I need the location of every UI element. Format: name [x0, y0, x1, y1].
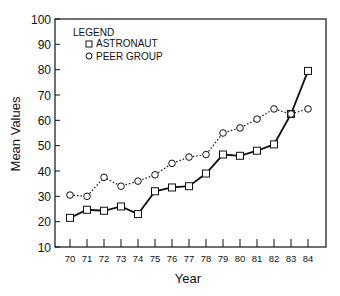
circle-marker-icon [84, 193, 91, 200]
series-layer [67, 67, 312, 221]
y-tick-label: 10 [38, 241, 52, 255]
x-tick-label: 82 [269, 253, 280, 264]
circle-marker-icon [203, 151, 210, 158]
circle-marker-icon [135, 178, 142, 185]
series-astronaut [67, 67, 312, 221]
square-marker-icon [67, 214, 74, 221]
square-marker-icon [203, 170, 210, 177]
y-tick-label: 90 [38, 38, 52, 52]
x-tick-label: 80 [235, 253, 246, 264]
x-tick-label: 71 [82, 253, 93, 264]
legend-square-marker-icon [86, 41, 92, 47]
x-tick-label: 77 [184, 253, 195, 264]
square-marker-icon [84, 206, 91, 213]
y-tick-label: 100 [31, 13, 51, 27]
circle-marker-icon [288, 111, 295, 118]
circle-marker-icon [254, 116, 261, 123]
circle-marker-icon [186, 154, 193, 161]
y-tick-label: 50 [38, 139, 52, 153]
y-axis-title: Mean Values [8, 96, 23, 171]
square-marker-icon [271, 141, 278, 148]
x-tick-label: 73 [116, 253, 127, 264]
legend-entry-astronaut: ASTRONAUT [96, 38, 158, 49]
y-tick-label: 30 [38, 190, 52, 204]
square-marker-icon [237, 152, 244, 159]
square-marker-icon [101, 207, 108, 214]
legend-entry-peer-group: PEER GROUP [96, 51, 163, 62]
y-tick-label: 80 [38, 63, 52, 77]
y-tick-label: 20 [38, 215, 52, 229]
circle-marker-icon [67, 192, 74, 199]
square-marker-icon [135, 211, 142, 218]
x-tick-label: 83 [286, 253, 297, 264]
circle-marker-icon [220, 130, 227, 137]
square-marker-icon [220, 151, 227, 158]
x-tick-label: 74 [133, 253, 144, 264]
circle-marker-icon [305, 106, 312, 113]
line-chart: 102030405060708090100 707172737475767778… [0, 0, 340, 296]
x-tick-label: 72 [99, 253, 110, 264]
x-tick-label: 78 [201, 253, 212, 264]
x-axis-title: Year [175, 271, 202, 286]
legend-circle-marker-icon [86, 53, 92, 59]
x-tick-label: 76 [167, 253, 178, 264]
y-tick-label: 60 [38, 114, 52, 128]
x-tick-label: 84 [303, 253, 314, 264]
legend: LEGEND ASTRONAUT PEER GROUP [73, 27, 163, 62]
circle-marker-icon [169, 160, 176, 167]
x-axis: 707172737475767778798081828384 [65, 239, 314, 264]
circle-marker-icon [101, 174, 108, 181]
square-marker-icon [305, 67, 312, 74]
circle-marker-icon [237, 125, 244, 132]
square-marker-icon [169, 184, 176, 191]
x-tick-label: 75 [150, 253, 161, 264]
x-tick-label: 79 [218, 253, 229, 264]
circle-marker-icon [118, 183, 125, 190]
legend-title: LEGEND [73, 27, 114, 38]
y-tick-label: 70 [38, 89, 52, 103]
square-marker-icon [186, 183, 193, 190]
square-marker-icon [118, 203, 125, 210]
y-axis: 102030405060708090100 [31, 13, 60, 255]
y-tick-label: 40 [38, 165, 52, 179]
square-marker-icon [254, 147, 261, 154]
circle-marker-icon [271, 106, 278, 113]
x-tick-label: 70 [65, 253, 76, 264]
circle-marker-icon [152, 172, 159, 179]
square-marker-icon [152, 188, 159, 195]
x-tick-label: 81 [252, 253, 263, 264]
